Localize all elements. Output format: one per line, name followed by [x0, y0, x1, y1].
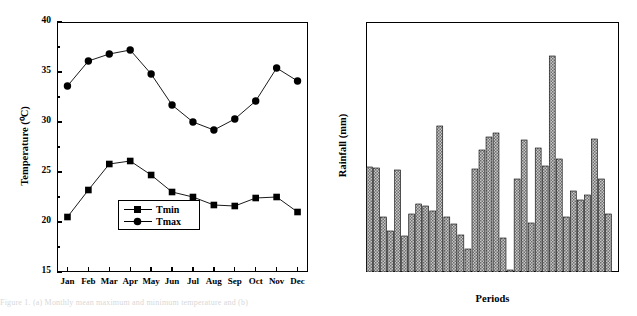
- panel-a-point-tmax-jul: [189, 118, 196, 125]
- panel-a-point-tmin-apr: [127, 158, 134, 165]
- panel-a-ytick-minor: [57, 46, 60, 47]
- panel-a-point-tmin-mar: [106, 161, 113, 168]
- panel-a-point-tmin-may: [148, 172, 155, 179]
- panel-a-point-tmin-nov: [273, 194, 280, 201]
- panel-a-series-canvas: [57, 22, 308, 272]
- panel-b-bar-1983-84: [381, 217, 387, 272]
- panel-a-xtick-dec: [297, 267, 298, 272]
- panel-a-point-tmin-dec: [294, 209, 301, 216]
- panel-a-ytick-40: [57, 21, 62, 22]
- panel-a-point-tmin-aug: [211, 202, 218, 209]
- panel-a-ytick-label-20: 20: [23, 215, 51, 225]
- legend-entry-tmin[interactable]: Tmin: [123, 203, 195, 215]
- panel-a-ytick-minor: [57, 146, 60, 147]
- figure-container: Temperature (⁰C) (a) 152025303540 JanFeb…: [0, 0, 637, 316]
- panel-b-bar-1993-94: [451, 224, 457, 272]
- panel-b-bar-1991-92: [437, 126, 443, 272]
- panel-a-ytick-15: [57, 271, 62, 272]
- panel-a-point-tmax-aug: [210, 126, 217, 133]
- panel-b-bar-1995-96: [465, 249, 471, 272]
- panel-b-bar-1997-98: [479, 150, 485, 272]
- panel-a-ytick-20: [57, 221, 62, 222]
- panel-a-point-tmin-oct: [252, 195, 259, 202]
- panel-b-y-axis-title: Rainfall (mm): [337, 76, 348, 216]
- panel-a-point-tmax-apr: [127, 46, 134, 53]
- panel-b-bar-2008-09: [556, 159, 562, 272]
- panel-b-bars-canvas: [366, 22, 619, 272]
- panel-a-xtick-jul: [192, 267, 193, 272]
- panel-b-bar-2006-07: [542, 166, 548, 272]
- panel-b-bar-1994-95: [458, 235, 464, 272]
- panel-b-bar-2002-03: [514, 179, 520, 272]
- panel-a-point-tmax-may: [147, 70, 154, 77]
- panel-b-bar-1989-90: [423, 206, 429, 272]
- panel-a-point-tmin-jan: [64, 214, 71, 221]
- panel-a-ytick-minor: [57, 96, 60, 97]
- panel-a-ytick-label-25: 25: [23, 165, 51, 175]
- panel-a-ytick-minor: [57, 196, 60, 197]
- panel-b-bar-2003-04: [521, 140, 527, 272]
- panel-a-xtick-feb: [88, 267, 89, 272]
- panel-b-bar-1999-00: [493, 133, 499, 272]
- panel-a-ytick-label-15: 15: [23, 265, 51, 275]
- legend-entry-tmax[interactable]: Tmax: [123, 215, 195, 227]
- panel-b-bar-2015-16: [606, 214, 612, 272]
- panel-b-bar-2009-10: [563, 217, 569, 272]
- panel-a-ytick-30: [57, 121, 62, 122]
- panel-a-xtick-nov: [276, 267, 277, 272]
- panel-b-bar-2014-15: [598, 179, 604, 272]
- panel-a-point-tmax-oct: [252, 97, 259, 104]
- panel-a-point-tmin-sep: [231, 203, 238, 210]
- panel-a-xtick-jun: [171, 267, 172, 272]
- panel-a-point-tmax-nov: [273, 64, 280, 71]
- panel-a-legend[interactable]: Tmin Tmax: [118, 200, 200, 230]
- panel-a-line-tmax: [67, 50, 297, 130]
- panel-a-xtick-aug: [213, 267, 214, 272]
- panel-a-xtick-jan: [67, 267, 68, 272]
- panel-a-ytick-25: [57, 171, 62, 172]
- panel-a-xtick-oct: [255, 267, 256, 272]
- panel-b-bar-1981-82: [367, 167, 373, 272]
- panel-b-bar-1992-93: [444, 217, 450, 272]
- panel-a-xtick-label-dec: Dec: [285, 276, 311, 286]
- panel-a-ytick-label-40: 40: [23, 15, 51, 25]
- panel-a-ytick-label-35: 35: [23, 65, 51, 75]
- panel-a-xtick-sep: [234, 267, 235, 272]
- legend-marker-square: [123, 204, 153, 215]
- legend-label-tmax: Tmax: [156, 216, 181, 227]
- legend-label-tmin: Tmin: [156, 204, 179, 215]
- panel-b-bar-1982-83: [374, 168, 380, 272]
- panel-b-bar-2010-11: [570, 191, 576, 272]
- panel-a-point-tmax-jun: [168, 101, 175, 108]
- panel-a-point-tmax-dec: [294, 77, 301, 84]
- panel-a-ytick-35: [57, 71, 62, 72]
- panel-a-xtick-mar: [109, 267, 110, 272]
- panel-b-bar-1987-88: [409, 214, 415, 272]
- panel-b-rainfall-chart: Rainfall (mm) (b) Periods: [320, 0, 637, 316]
- legend-marker-circle: [123, 216, 153, 227]
- panel-b-bar-1998-99: [486, 137, 492, 272]
- panel-b-bar-2000-01: [500, 238, 506, 272]
- panel-a-point-tmin-feb: [85, 187, 92, 194]
- panel-a-xtick-apr: [130, 267, 131, 272]
- panel-a-point-tmax-jan: [64, 82, 71, 89]
- panel-a-point-tmax-mar: [106, 50, 113, 57]
- panel-a-temperature-chart: Temperature (⁰C) (a) 152025303540 JanFeb…: [0, 0, 320, 316]
- panel-b-bar-2011-12: [577, 200, 583, 272]
- figure-caption-strip: Figure 1. (a) Monthly mean maximum and m…: [0, 298, 637, 316]
- panel-a-xtick-may: [150, 267, 151, 272]
- panel-a-point-tmax-feb: [85, 57, 92, 64]
- panel-b-bar-2007-08: [549, 56, 555, 272]
- panel-a-point-tmin-jun: [169, 189, 176, 196]
- panel-b-bar-2012-13: [584, 195, 590, 272]
- panel-b-bar-2013-14: [591, 139, 597, 272]
- figure-caption-text: Figure 1. (a) Monthly mean maximum and m…: [0, 298, 637, 307]
- panel-a-ytick-label-30: 30: [23, 115, 51, 125]
- panel-b-bar-2004-05: [528, 223, 534, 272]
- panel-b-bar-1988-89: [416, 204, 422, 272]
- panel-b-bar-1990-91: [430, 211, 436, 272]
- panel-b-bar-1986-87: [402, 236, 408, 272]
- panel-a-y-axis-title: Temperature (⁰C): [18, 76, 30, 216]
- panel-a-point-tmax-sep: [231, 115, 238, 122]
- panel-a-ytick-minor: [57, 246, 60, 247]
